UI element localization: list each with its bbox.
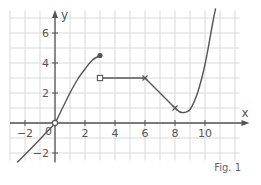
- x-tick-label: 10: [198, 127, 212, 140]
- y-tick-label: −2: [33, 147, 49, 160]
- x-axis-label: x: [242, 106, 249, 120]
- y-tick-label: 4: [42, 57, 49, 70]
- open-circle-marker: [52, 120, 57, 125]
- x-tick-label: 6: [142, 127, 149, 140]
- y-axis-label: y: [61, 8, 68, 22]
- y-tick-label: 2: [42, 87, 49, 100]
- x-tick-label: 4: [112, 127, 119, 140]
- open-square-marker: [97, 75, 102, 80]
- x-tick-label: −2: [17, 127, 33, 140]
- function-graph: xy −20246810−2246: [0, 0, 261, 185]
- y-axis-arrow-icon: [52, 10, 58, 18]
- x-axis-arrow-icon: [242, 120, 250, 126]
- y-tick-label: 6: [42, 27, 49, 40]
- curve-2: [175, 9, 216, 113]
- curve-1: [18, 56, 101, 163]
- x-tick-label: 2: [82, 127, 89, 140]
- figure-caption: Fig. 1: [214, 162, 241, 173]
- x-tick-label: 8: [172, 127, 179, 140]
- filled-circle-marker: [97, 53, 102, 58]
